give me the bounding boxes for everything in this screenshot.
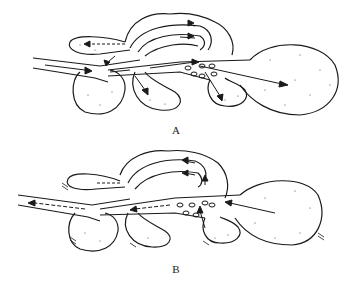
respiratory-diagram-a xyxy=(0,0,351,143)
panel-label-b: B xyxy=(166,263,186,275)
panel-b-expiration: B xyxy=(0,143,351,286)
panel-a-inspiration: A xyxy=(0,0,351,143)
panel-label-a: A xyxy=(166,124,186,136)
